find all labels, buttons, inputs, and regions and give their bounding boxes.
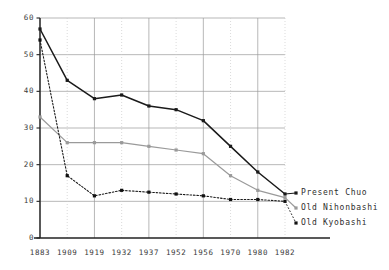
series-marker <box>229 174 232 177</box>
series-marker <box>256 170 259 173</box>
series-marker <box>202 152 205 155</box>
series-marker <box>147 191 150 194</box>
series-marker <box>229 198 232 201</box>
legend-leader-lines <box>285 191 298 224</box>
y-axis-tick-label: 40 <box>8 87 34 95</box>
data-series-layer <box>38 27 286 203</box>
legend-leader-line <box>285 193 296 194</box>
x-axis-tick-label: 1982 <box>265 249 305 257</box>
series-marker <box>120 189 123 192</box>
series-line <box>40 40 285 201</box>
plot-area <box>0 0 389 270</box>
series-marker <box>147 145 150 148</box>
line-chart: 0102030405060 18831909191919321937195219… <box>0 0 389 270</box>
series-line <box>40 117 285 198</box>
series-marker <box>120 141 123 144</box>
series-marker <box>120 93 123 96</box>
series-marker <box>256 198 259 201</box>
series-marker <box>38 38 41 41</box>
series-marker <box>66 141 69 144</box>
legend-item-label: Old Nihonbashi <box>301 204 378 212</box>
series-marker <box>38 115 41 118</box>
series-marker <box>256 189 259 192</box>
legend-leader-line <box>285 201 296 223</box>
legend-item-label: Present Chuo <box>301 189 367 197</box>
y-axis-tick-label: 10 <box>8 197 34 205</box>
series-marker <box>66 174 69 177</box>
series-marker <box>93 141 96 144</box>
series-line <box>40 29 285 194</box>
series-marker <box>38 27 41 30</box>
series-marker <box>202 194 205 197</box>
legend-leader-line <box>285 198 296 208</box>
y-axis-tick-label: 30 <box>8 124 34 132</box>
y-axis-tick-label: 50 <box>8 51 34 59</box>
series-marker <box>93 97 96 100</box>
series-marker <box>175 148 178 151</box>
series-marker <box>175 108 178 111</box>
y-axis-tick-label: 20 <box>8 161 34 169</box>
legend-item-label: Old Kyobashi <box>301 219 367 227</box>
y-axis-tick-label: 0 <box>8 234 34 242</box>
y-axis-tick-label: 60 <box>8 14 34 22</box>
series-marker <box>66 79 69 82</box>
series-marker <box>202 119 205 122</box>
series-marker <box>175 192 178 195</box>
series-marker <box>229 145 232 148</box>
series-marker <box>147 104 150 107</box>
series-marker <box>93 194 96 197</box>
grid-lines <box>40 18 285 238</box>
